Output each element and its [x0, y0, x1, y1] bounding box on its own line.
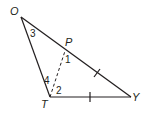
- angle-label-3: 3: [30, 28, 36, 39]
- vertex-label-O: O: [10, 5, 19, 17]
- angle-label-2: 2: [56, 85, 62, 96]
- vertex-label-Y: Y: [132, 91, 140, 103]
- vertex-label-T: T: [41, 98, 49, 110]
- angle-label-1: 1: [65, 54, 71, 65]
- vertex-label-P: P: [65, 36, 73, 48]
- angle-label-4: 4: [44, 75, 50, 86]
- segment-OY: [21, 17, 131, 97]
- triangle-diagram: O P T Y 3 1 4 2: [0, 0, 145, 120]
